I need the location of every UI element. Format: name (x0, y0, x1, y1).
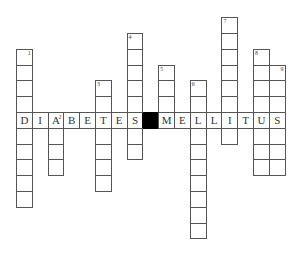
column-cell[interactable] (221, 33, 238, 50)
column-cell[interactable] (16, 65, 33, 82)
clue-number: 4 (129, 34, 132, 40)
column-cell[interactable] (221, 49, 238, 66)
row-cell[interactable]: I (221, 112, 238, 129)
column-cell[interactable]: 1 (16, 49, 33, 66)
crossword-grid: DIA2BETESMELLITUS13456789 (0, 0, 294, 255)
column-cell[interactable] (127, 96, 144, 113)
cell-letter: I (228, 114, 232, 126)
cell-letter: I (38, 114, 42, 126)
column-cell[interactable] (48, 144, 65, 161)
column-cell[interactable] (190, 175, 207, 192)
column-cell[interactable]: 4 (127, 33, 144, 50)
cell-letter: L (211, 114, 218, 126)
column-cell[interactable] (127, 65, 144, 82)
cell-letter: U (257, 114, 265, 126)
row-cell[interactable]: E (79, 112, 96, 129)
row-cell[interactable]: S (127, 112, 144, 129)
column-cell[interactable] (221, 96, 238, 113)
column-cell[interactable] (253, 65, 270, 82)
column-cell[interactable] (158, 96, 175, 113)
column-cell[interactable] (16, 96, 33, 113)
column-cell[interactable] (16, 159, 33, 176)
cell-letter: T (242, 114, 249, 126)
clue-number: 6 (192, 81, 195, 87)
row-cell[interactable]: L (206, 112, 223, 129)
column-cell[interactable] (253, 144, 270, 161)
column-cell[interactable] (190, 144, 207, 161)
row-cell[interactable]: B (63, 112, 80, 129)
column-cell[interactable] (269, 159, 286, 176)
clue-number: 1 (28, 50, 31, 56)
cell-letter: B (68, 114, 75, 126)
column-cell[interactable] (253, 128, 270, 145)
column-cell[interactable] (253, 80, 270, 97)
column-cell[interactable] (16, 80, 33, 97)
row-cell[interactable]: M (158, 112, 175, 129)
column-cell[interactable] (190, 128, 207, 145)
cell-letter: T (100, 114, 107, 126)
cell-letter: S (132, 114, 138, 126)
clue-number: 2 (58, 114, 61, 120)
row-cell[interactable]: A2 (48, 112, 65, 129)
column-cell[interactable] (95, 175, 112, 192)
column-cell[interactable] (48, 159, 65, 176)
column-cell[interactable] (127, 144, 144, 161)
column-cell[interactable] (16, 175, 33, 192)
column-cell[interactable] (127, 128, 144, 145)
column-cell[interactable] (221, 65, 238, 82)
column-cell[interactable] (253, 96, 270, 113)
row-cell[interactable]: I (32, 112, 49, 129)
row-cell[interactable]: E (174, 112, 191, 129)
cell-letter: S (274, 114, 280, 126)
column-cell[interactable] (190, 191, 207, 208)
column-cell[interactable] (95, 144, 112, 161)
row-cell[interactable]: S (269, 112, 286, 129)
column-cell[interactable] (16, 128, 33, 145)
row-cell[interactable]: E (111, 112, 128, 129)
cell-letter: E (116, 114, 123, 126)
cell-letter: D (20, 114, 28, 126)
row-cell[interactable]: D (16, 112, 33, 129)
column-cell[interactable] (190, 207, 207, 224)
clue-number: 7 (223, 18, 226, 24)
column-cell[interactable] (253, 159, 270, 176)
column-cell[interactable] (269, 80, 286, 97)
cell-letter: E (179, 114, 186, 126)
black-cell (142, 112, 159, 129)
column-cell[interactable] (269, 144, 286, 161)
cell-letter: E (84, 114, 91, 126)
column-cell[interactable] (158, 80, 175, 97)
column-cell[interactable] (95, 96, 112, 113)
column-cell[interactable] (95, 159, 112, 176)
column-cell[interactable]: 8 (253, 49, 270, 66)
column-cell[interactable] (95, 128, 112, 145)
column-cell[interactable]: 7 (221, 17, 238, 34)
row-cell[interactable]: L (190, 112, 207, 129)
column-cell[interactable] (127, 49, 144, 66)
cell-letter: L (195, 114, 202, 126)
column-cell[interactable] (269, 128, 286, 145)
column-cell[interactable] (269, 96, 286, 113)
column-cell[interactable] (48, 128, 65, 145)
column-cell[interactable] (127, 80, 144, 97)
column-cell[interactable] (190, 223, 207, 240)
column-cell[interactable] (16, 191, 33, 208)
row-cell[interactable]: U (253, 112, 270, 129)
column-cell[interactable]: 9 (269, 65, 286, 82)
column-cell[interactable] (16, 144, 33, 161)
column-cell[interactable] (190, 159, 207, 176)
column-cell[interactable]: 5 (158, 65, 175, 82)
column-cell[interactable] (221, 80, 238, 97)
row-cell[interactable]: T (237, 112, 254, 129)
clue-number: 8 (255, 50, 258, 56)
column-cell[interactable]: 3 (95, 80, 112, 97)
clue-number: 3 (97, 81, 100, 87)
column-cell[interactable] (190, 96, 207, 113)
column-cell[interactable] (221, 128, 238, 145)
row-cell[interactable]: T (95, 112, 112, 129)
column-cell[interactable]: 6 (190, 80, 207, 97)
cell-letter: M (162, 114, 172, 126)
clue-number: 5 (160, 66, 163, 72)
clue-number: 9 (281, 66, 284, 72)
